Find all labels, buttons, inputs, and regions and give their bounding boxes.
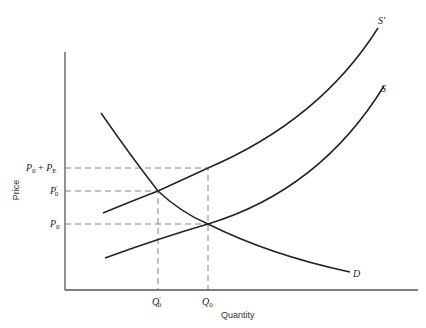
label-d: D <box>352 268 361 279</box>
shifted-supply-curve <box>103 28 378 213</box>
axes <box>65 52 418 290</box>
tick-p0-plus-pe: P0 + PE <box>25 162 57 175</box>
tick-q0: Q0 <box>202 296 213 309</box>
supply-demand-diagram: S′ S D P0 + PE P′0 P0 Q′0 Q0 Quantity Pr… <box>0 0 426 328</box>
y-axis-label: Price <box>11 180 21 201</box>
curves <box>101 28 384 272</box>
tick-q0-prime: Q′0 <box>152 295 162 309</box>
label-s: S <box>381 83 386 94</box>
guide-p0-plus-pe <box>65 168 208 290</box>
tick-p0: P0 <box>49 218 60 231</box>
guide-p0-prime <box>65 191 158 290</box>
label-s-prime: S′ <box>378 15 386 26</box>
tick-p0-prime: P′0 <box>49 184 59 198</box>
guide-lines <box>65 168 208 290</box>
x-axis-label: Quantity <box>221 310 255 320</box>
demand-curve <box>101 113 350 272</box>
supply-curve <box>105 86 384 258</box>
